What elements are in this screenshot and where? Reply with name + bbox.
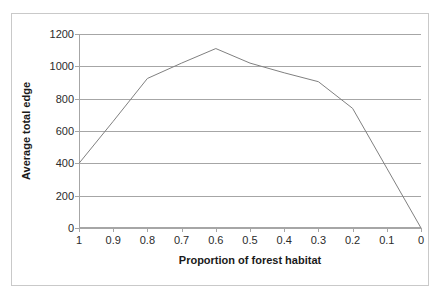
y-axis-tick-label: 200 bbox=[56, 191, 74, 202]
x-axis-tick-label: 0.5 bbox=[242, 235, 257, 246]
x-axis-tick bbox=[147, 228, 148, 232]
y-axis-tick bbox=[75, 34, 79, 35]
x-axis-tick-label: 0.6 bbox=[208, 235, 223, 246]
chart-frame: Average total edge 120010008006004002000… bbox=[11, 13, 429, 286]
x-axis-tick-label: 0.9 bbox=[106, 235, 121, 246]
x-axis-tick-label: 1 bbox=[76, 235, 82, 246]
x-axis-tick bbox=[318, 228, 319, 232]
x-axis-tick-label: 0 bbox=[418, 235, 424, 246]
x-axis-tick bbox=[421, 228, 422, 232]
plot-area bbox=[79, 34, 421, 228]
x-axis-tick bbox=[79, 228, 80, 232]
y-axis-tick-label: 400 bbox=[56, 158, 74, 169]
y-axis-tick bbox=[75, 196, 79, 197]
y-axis-tick bbox=[75, 228, 79, 229]
x-axis-tick bbox=[353, 228, 354, 232]
x-axis-tick-label: 0.3 bbox=[311, 235, 326, 246]
y-axis-tick-labels: 120010008006004002000 bbox=[12, 34, 74, 228]
x-axis-tick-label: 0.8 bbox=[140, 235, 155, 246]
y-axis-tick bbox=[75, 163, 79, 164]
y-axis-tick-label: 800 bbox=[56, 94, 74, 105]
x-axis-tick-label: 0.4 bbox=[277, 235, 292, 246]
y-axis-tick-label: 600 bbox=[56, 126, 74, 137]
data-series-line bbox=[79, 34, 421, 228]
x-axis-tick bbox=[250, 228, 251, 232]
x-axis-tick bbox=[182, 228, 183, 232]
y-axis-tick-label: 1200 bbox=[50, 29, 74, 40]
x-axis-tick bbox=[284, 228, 285, 232]
y-axis-tick-label: 1000 bbox=[50, 61, 74, 72]
x-axis-tick bbox=[387, 228, 388, 232]
y-axis-tick-label: 0 bbox=[68, 223, 74, 234]
x-axis-tick-labels: 10.90.80.70.60.50.40.30.20.10 bbox=[79, 235, 421, 249]
y-axis-tick bbox=[75, 99, 79, 100]
y-axis-tick bbox=[75, 66, 79, 67]
x-axis-tick bbox=[216, 228, 217, 232]
x-axis-tick bbox=[113, 228, 114, 232]
x-axis-tick-label: 0.1 bbox=[379, 235, 394, 246]
x-axis-title: Proportion of forest habitat bbox=[79, 254, 421, 266]
y-axis-tick bbox=[75, 131, 79, 132]
x-axis-tick-label: 0.2 bbox=[345, 235, 360, 246]
x-axis-tick-label: 0.7 bbox=[174, 235, 189, 246]
